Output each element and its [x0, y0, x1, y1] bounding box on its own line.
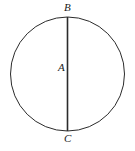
point-label-a: A [58, 62, 65, 73]
circle-diagram-svg [0, 0, 135, 151]
point-label-c: C [64, 133, 71, 144]
geometry-figure: B A C [0, 0, 135, 151]
point-label-b: B [64, 2, 71, 13]
